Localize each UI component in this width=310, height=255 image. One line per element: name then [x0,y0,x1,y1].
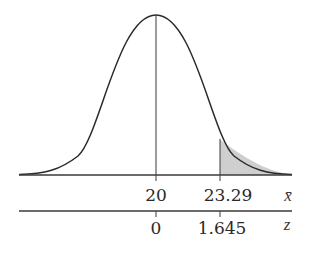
xbar-crit-label: 23.29 [204,185,253,205]
xbar-mean-label: 20 [145,185,167,205]
shaded-tail-region [220,140,292,176]
xbar-variable-label: x̄ [283,186,292,205]
z-variable-label: z [283,215,291,234]
normal-distribution-chart: 20 23.29 x̄ 0 1.645 z [0,0,310,255]
z-crit-label: 1.645 [198,218,247,238]
z-mean-label: 0 [151,218,162,238]
